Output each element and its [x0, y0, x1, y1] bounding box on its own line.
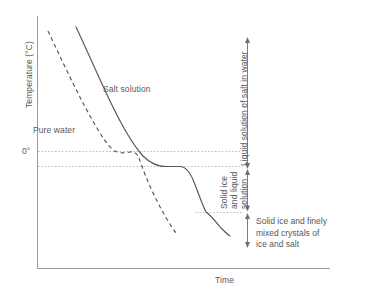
pure-water-label: Pure water [33, 125, 75, 136]
chart-canvas [0, 0, 368, 301]
bracket-label-solid-ice-liquid-line2: and liquid [229, 172, 240, 209]
bracket-label-liquid-solution: Liquid solution of salt in water [239, 51, 250, 166]
salt-solution-label: Salt solution [103, 84, 151, 95]
y-axis-title: Temperature (°C) [24, 41, 35, 108]
y-axis-tick-zero: 0° [22, 146, 30, 157]
bracket-solid-ice-crystals [245, 213, 250, 248]
curve-salt-solution [76, 27, 230, 236]
bracket-label-solid-ice-liquid-line1: Solid ice [219, 176, 230, 209]
bracket-label-solid-ice-liquid-line3: solution [239, 179, 250, 209]
x-axis-title: Time [215, 275, 234, 286]
temperature-time-chart: Temperature (°C) 0° Time Salt solution P… [0, 0, 368, 301]
bracket-label-solid-ice-crystals: Solid ice and finely mixed crystals of i… [256, 216, 360, 251]
